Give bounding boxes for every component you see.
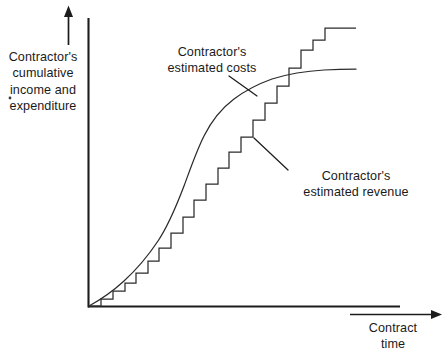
arrow-up-icon — [64, 6, 73, 46]
revenue-label-leader-line — [254, 138, 288, 170]
y-axis-label: Contractor's cumulative income and expen… — [0, 49, 86, 114]
revenue-series-label: Contractor's estimated revenue — [276, 168, 436, 201]
arrow-right-icon — [350, 310, 442, 319]
cost-series-label: Contractor's estimated costs — [150, 44, 274, 77]
x-axis-label: Contract time — [345, 320, 441, 353]
chart-figure: Contractor's cumulative income and expen… — [0, 0, 444, 359]
